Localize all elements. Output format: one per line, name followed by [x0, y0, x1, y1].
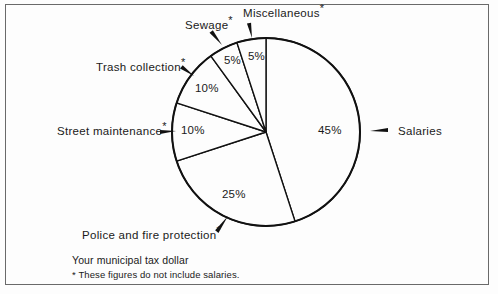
slice-callout-label: Sewage*: [185, 20, 233, 32]
figure-page: 45%Salaries25%Police and fire protection…: [0, 0, 498, 294]
pie-chart-svg: [0, 0, 498, 294]
slice-value-label: 5%: [224, 55, 241, 67]
chart-caption-title: Your municipal tax dollar: [72, 255, 189, 266]
footnote-text: These figures do not include salaries.: [76, 269, 240, 280]
callout-asterisk: *: [216, 224, 221, 236]
slice-callout-label: Miscellaneous*: [243, 8, 324, 20]
callout-arrow: [370, 128, 388, 132]
slice-value-label: 10%: [195, 83, 219, 95]
slice-value-label: 45%: [318, 125, 342, 137]
callout-asterisk: *: [228, 14, 233, 26]
callout-asterisk: *: [320, 2, 325, 14]
slice-callout-label: Trash collection*: [96, 62, 186, 74]
callout-arrow: [247, 23, 252, 38]
slice-value-label: 5%: [248, 51, 265, 63]
callout-asterisk: *: [181, 56, 186, 68]
slice-callout-label: Street maintenance*: [57, 126, 167, 138]
slice-value-label: 10%: [181, 125, 205, 137]
chart-caption-footnote: * These figures do not include salaries.: [72, 270, 240, 280]
slice-value-label: 25%: [222, 189, 246, 201]
slice-callout-label: Police and fire protection*: [82, 230, 221, 242]
slice-callout-label: Salaries: [398, 126, 442, 138]
callout-arrow: [209, 30, 222, 45]
callout-asterisk: *: [162, 120, 167, 132]
